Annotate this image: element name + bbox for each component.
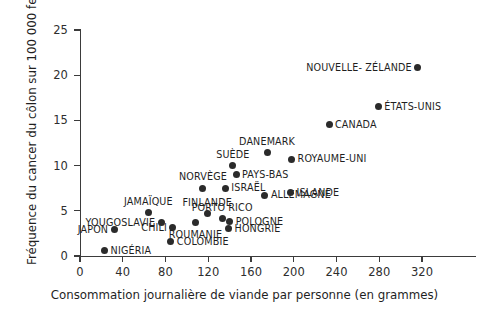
y-tick-mark: [74, 210, 80, 211]
x-axis-title: Consommation journalière de viande par p…: [0, 288, 489, 302]
y-tick-label: 0: [44, 249, 68, 263]
x-tick-label: 120: [188, 265, 228, 279]
x-tick-label: 160: [231, 265, 271, 279]
data-point-marker[interactable]: [192, 219, 199, 226]
x-tick-mark: [421, 256, 422, 262]
data-point-label: NOUVELLE- ZÉLANDE: [306, 62, 412, 73]
data-point-label: ISLANDE: [297, 187, 340, 198]
y-tick-label: 15: [44, 113, 68, 127]
data-point-label: JAMAÏQUE: [124, 196, 173, 207]
x-tick-label: 80: [146, 265, 186, 279]
x-tick-label: 0: [60, 265, 100, 279]
x-tick-label: 240: [317, 265, 357, 279]
data-point-label: ROYAUME-UNI: [298, 153, 367, 164]
y-tick-mark: [74, 29, 80, 30]
data-point-label: ÉTATS-UNIS: [384, 101, 441, 112]
data-point-marker[interactable]: [101, 247, 108, 254]
data-point-label: SUÈDE: [216, 149, 249, 160]
data-point-label: ROUMANIE: [169, 229, 222, 240]
data-point-marker[interactable]: [264, 149, 271, 156]
x-tick-mark: [122, 256, 123, 262]
data-point-label: POLOGNE: [236, 216, 284, 227]
x-tick-label: 320: [402, 265, 442, 279]
x-tick-mark: [165, 256, 166, 262]
y-tick-label: 5: [44, 204, 68, 218]
x-tick-mark: [293, 256, 294, 262]
data-point-marker[interactable]: [199, 185, 206, 192]
y-tick-label: 20: [44, 68, 68, 82]
y-tick-mark: [74, 165, 80, 166]
data-point-label: NORVÈGE: [179, 171, 227, 182]
x-tick-mark: [379, 256, 380, 262]
x-tick-mark: [79, 256, 80, 262]
data-point-label: CANADA: [335, 119, 377, 130]
data-point-label: NIGÉRIA: [111, 245, 152, 256]
data-point-label: YOUGOSLAVIE: [86, 217, 156, 228]
data-point-marker[interactable]: [414, 64, 421, 71]
data-point-marker[interactable]: [225, 225, 232, 232]
x-tick-mark: [336, 256, 337, 262]
data-point-label: ISRAËL: [231, 182, 265, 193]
x-tick-label: 200: [274, 265, 314, 279]
y-tick-mark: [74, 120, 80, 121]
y-axis-title: Fréquence du cancer du côlon sur 100 000…: [25, 15, 39, 265]
data-point-marker[interactable]: [158, 219, 165, 226]
x-tick-label: 280: [359, 265, 399, 279]
data-point-label: FINLANDE: [182, 197, 231, 208]
data-point-label: DANEMARK: [239, 136, 295, 147]
plot-area: 0510152025 04080120160200240280320 NIGÉR…: [0, 0, 489, 311]
data-point-marker[interactable]: [375, 103, 382, 110]
y-tick-mark: [74, 75, 80, 76]
data-point-marker[interactable]: [204, 210, 211, 217]
data-point-marker[interactable]: [222, 185, 229, 192]
scatter-chart-figure: 0510152025 04080120160200240280320 NIGÉR…: [0, 0, 489, 311]
data-point-marker[interactable]: [326, 121, 333, 128]
y-tick-label: 25: [44, 23, 68, 37]
data-point-marker[interactable]: [219, 215, 226, 222]
y-tick-label: 10: [44, 159, 68, 173]
x-tick-label: 40: [103, 265, 143, 279]
x-tick-mark: [250, 256, 251, 262]
data-point-marker[interactable]: [145, 209, 152, 216]
data-point-marker[interactable]: [233, 171, 240, 178]
data-point-label: PAYS-BAS: [242, 169, 289, 180]
data-point-marker[interactable]: [288, 156, 295, 163]
x-tick-mark: [208, 256, 209, 262]
x-axis-line: [80, 256, 476, 257]
data-point-marker[interactable]: [229, 162, 236, 169]
data-point-marker[interactable]: [226, 218, 233, 225]
